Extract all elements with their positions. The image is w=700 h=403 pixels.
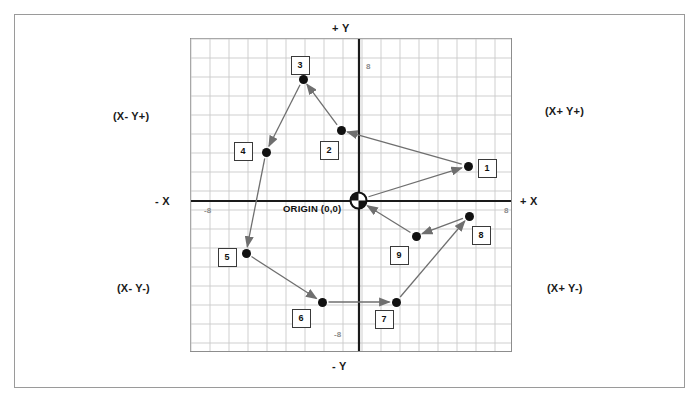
point-label-box-8: 8 <box>472 226 491 245</box>
axis-label-y-negative: - Y <box>332 360 347 372</box>
quadrant-label-x-pos-y-pos: (X+ Y+) <box>545 105 584 117</box>
diagram-page: + Y - Y + X - X (X+ Y+) (X- Y+) (X- Y-) … <box>0 0 700 403</box>
data-point-dot-5 <box>242 249 251 258</box>
point-label-box-7: 7 <box>375 310 394 329</box>
arrow-9-to-origin <box>367 206 410 233</box>
arrow-1-to-2 <box>347 132 461 164</box>
arrow-2-to-3 <box>307 84 337 125</box>
point-label-box-3: 3 <box>291 56 310 75</box>
tick-label-x-negative: -8 <box>204 206 211 215</box>
origin-label: ORIGIN (0,0) <box>283 203 341 214</box>
axis-label-x-negative: - X <box>155 195 170 207</box>
data-point-dot-4 <box>262 148 271 157</box>
data-point-dot-8 <box>465 212 474 221</box>
quadrant-label-x-neg-y-neg: (X- Y-) <box>117 282 150 294</box>
tick-label-y-positive: 8 <box>366 62 370 71</box>
data-point-dot-6 <box>318 298 327 307</box>
point-label-box-1: 1 <box>478 159 497 178</box>
arrow-5-to-6 <box>251 257 316 299</box>
arrow-8-to-9 <box>422 218 463 233</box>
data-point-dot-2 <box>337 126 346 135</box>
axis-label-y-positive: + Y <box>332 22 350 34</box>
data-point-dot-7 <box>392 298 401 307</box>
arrow-origin-to-1 <box>369 168 462 197</box>
quadrant-label-x-pos-y-neg: (X+ Y-) <box>547 282 583 294</box>
point-label-box-4: 4 <box>234 142 253 161</box>
data-point-dot-3 <box>299 75 308 84</box>
point-label-box-6: 6 <box>292 309 311 328</box>
tick-label-x-positive: 8 <box>504 206 508 215</box>
point-label-box-9: 9 <box>390 246 409 265</box>
quadrant-label-x-neg-y-pos: (X- Y+) <box>113 110 149 122</box>
point-label-box-5: 5 <box>218 248 237 267</box>
point-label-box-2: 2 <box>320 141 339 160</box>
axis-label-x-positive: + X <box>520 195 538 207</box>
data-point-dot-9 <box>412 232 421 241</box>
tick-label-y-negative: -8 <box>334 330 341 339</box>
arrow-3-to-4 <box>269 85 300 146</box>
data-point-dot-1 <box>464 162 473 171</box>
arrow-4-to-5 <box>247 158 264 246</box>
origin-marker-icon <box>349 191 368 210</box>
